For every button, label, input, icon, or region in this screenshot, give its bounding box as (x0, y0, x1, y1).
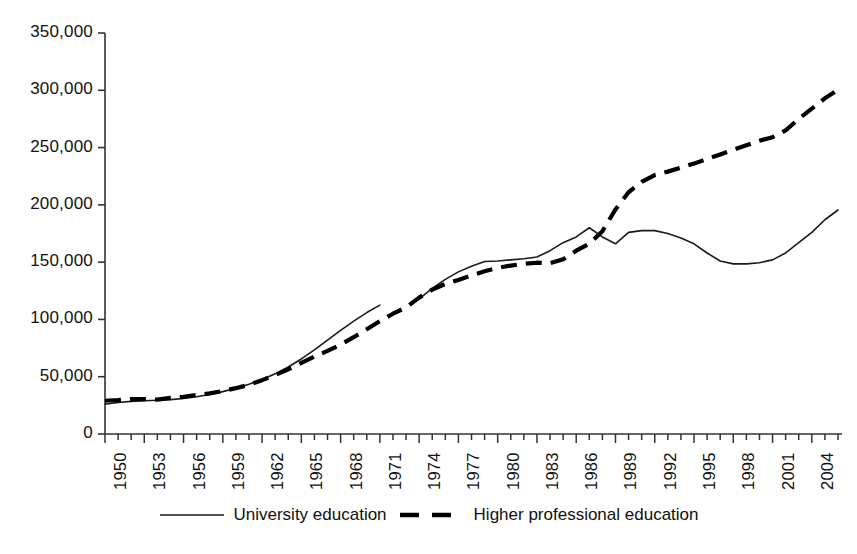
x-axis-tick-label: 2001 (779, 452, 798, 490)
x-axis-tick-label: 1983 (543, 452, 562, 490)
x-axis-tick-label: 1962 (268, 452, 287, 490)
x-axis-tick-label: 1998 (739, 452, 758, 490)
legend-label-university: University education (234, 505, 387, 525)
x-axis-tick-label: 1971 (386, 452, 405, 490)
x-axis-tick-label: 1968 (347, 452, 366, 490)
axis-ticks (98, 33, 838, 443)
x-axis-tick-label: 1989 (621, 452, 640, 490)
x-axis-tick-label: 1977 (464, 452, 483, 490)
series-line-university-education-seg1 (419, 210, 838, 299)
chart-legend: University education Higher professional… (0, 505, 857, 525)
x-axis-tick-label: 1974 (425, 452, 444, 490)
series-line-university-education-seg0 (105, 305, 380, 404)
chart-container: 050,000100,000150,000200,000250,000300,0… (0, 0, 857, 554)
x-axis-tick-label: 2004 (818, 452, 837, 490)
x-axis-tick-label: 1986 (582, 452, 601, 490)
x-axis-tick-label: 1956 (190, 452, 209, 490)
y-axis-tick-label: 150,000 (30, 251, 93, 271)
legend-label-higher-professional: Higher professional education (474, 505, 699, 525)
y-axis-tick-label: 0 (83, 423, 93, 443)
y-axis-tick-label: 250,000 (30, 137, 93, 157)
x-axis-tick-label: 1959 (229, 452, 248, 490)
x-axis-tick-label: 1950 (111, 452, 130, 490)
y-axis-tick-label: 200,000 (30, 194, 93, 214)
x-axis-tick-label: 1965 (307, 452, 326, 490)
series-line-higher-professional-education (105, 90, 838, 401)
y-axis-tick-label: 300,000 (30, 79, 93, 99)
legend-swatch-dashed-line (399, 509, 465, 521)
y-axis-tick-label: 100,000 (30, 308, 93, 328)
y-axis-tick-label: 50,000 (40, 366, 93, 386)
legend-entry-university: University education (159, 505, 387, 525)
axes-group (105, 33, 842, 434)
legend-swatch-solid-line (159, 509, 225, 521)
x-axis-tick-label: 1953 (150, 452, 169, 490)
legend-entry-higher-professional: Higher professional education (399, 505, 699, 525)
data-series-group (105, 90, 838, 405)
x-axis-tick-label: 1995 (700, 452, 719, 490)
x-axis-tick-label: 1992 (661, 452, 680, 490)
x-axis-tick-label: 1980 (504, 452, 523, 490)
y-axis-tick-label: 350,000 (30, 22, 93, 42)
